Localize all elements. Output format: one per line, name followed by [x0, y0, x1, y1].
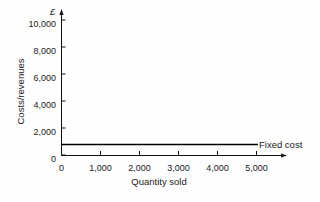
x-axis-title: Quantity sold — [61, 176, 257, 187]
y-tick-label-0: 0 — [6, 155, 56, 164]
x-tick-label-2000: 2,000 — [120, 164, 160, 173]
x-tick-label-1000: 1,000 — [81, 164, 121, 173]
chart-figure: £ 10,000 8,000 6,000 4,000 2,000 0 0 1,0… — [0, 0, 320, 202]
x-tick-label-5000: 5,000 — [237, 164, 277, 173]
x-axis-ticks — [62, 151, 257, 156]
x-tick-label-3000: 3,000 — [159, 164, 199, 173]
x-tick-label-4000: 4,000 — [198, 164, 238, 173]
y-tick-label-8000: 8,000 — [6, 47, 56, 56]
y-tick-label-4000: 4,000 — [6, 101, 56, 110]
series-label-fixed-cost: Fixed cost — [259, 139, 302, 150]
y-axis-arrowhead — [59, 9, 63, 15]
x-axis-arrowhead — [281, 153, 287, 157]
x-tick-label-0: 0 — [42, 164, 82, 173]
y-tick-label-2000: 2,000 — [6, 128, 56, 137]
y-axis-ticks — [62, 20, 66, 155]
y-tick-label-6000: 6,000 — [6, 74, 56, 83]
currency-symbol: £ — [50, 7, 55, 17]
y-tick-label-10000: 10,000 — [6, 20, 56, 29]
y-axis-title: Costs/revenues — [15, 36, 26, 148]
